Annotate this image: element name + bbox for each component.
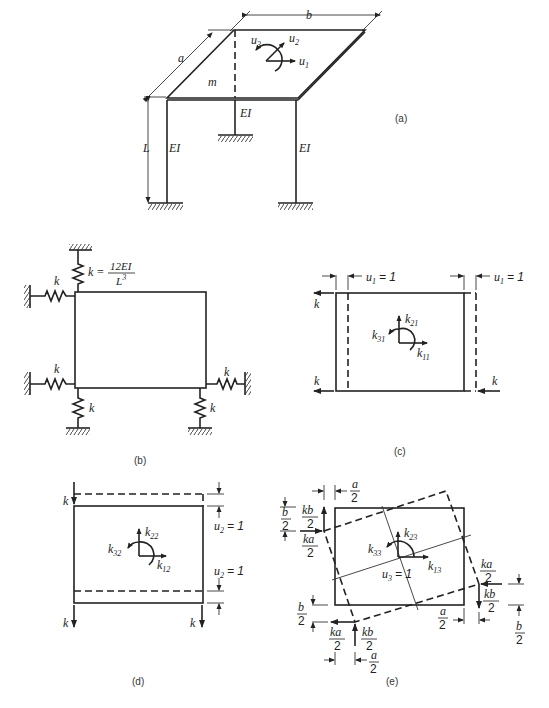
svg-text:k: k xyxy=(314,374,320,388)
fixed-support-icon xyxy=(218,135,253,142)
svg-text:k32: k32 xyxy=(108,542,121,558)
svg-text:k22: k22 xyxy=(145,525,158,541)
slab-plan xyxy=(336,293,464,391)
svg-text:k13: k13 xyxy=(428,559,441,575)
svg-text:kb: kb xyxy=(362,625,373,639)
svg-text:ka: ka xyxy=(303,532,314,546)
panel-c: u1= 1 u1= 1 k k k k21 k31 k11 (c) xyxy=(314,270,524,457)
structural-dynamics-figure: b a L m EI EI EI u1 u2 u3 (a) xyxy=(0,0,549,708)
svg-text:u1: u1 xyxy=(299,54,309,70)
svg-text:2: 2 xyxy=(351,491,358,505)
panel-label-b: (b) xyxy=(134,455,146,466)
spring-icon xyxy=(24,372,75,395)
svg-text:k: k xyxy=(63,616,69,630)
spring-icon xyxy=(66,388,90,435)
svg-text:u2: u2 xyxy=(289,31,299,47)
svg-text:k: k xyxy=(89,401,95,415)
label-b: b xyxy=(306,8,312,22)
svg-text:k: k xyxy=(224,365,230,379)
panel-a: b a L m EI EI EI u1 u2 u3 (a) xyxy=(142,8,407,210)
svg-text:2: 2 xyxy=(439,618,446,632)
svg-text:2: 2 xyxy=(307,546,314,560)
svg-text:u3: u3 xyxy=(251,33,261,49)
svg-text:kb: kb xyxy=(302,503,313,517)
svg-text:2: 2 xyxy=(485,571,492,585)
panel-e: k23 k33 k13 u3= 1 kb 2 ka 2 b 2 a 2 xyxy=(280,477,525,687)
svg-text:b: b xyxy=(298,600,304,614)
svg-text:k: k xyxy=(210,401,216,415)
label-a: a xyxy=(178,51,184,65)
svg-text:k12: k12 xyxy=(157,558,170,574)
svg-text:k21: k21 xyxy=(405,312,418,328)
panel-label-d: (d) xyxy=(132,676,144,687)
frac-kb-2: kb 2 xyxy=(302,503,318,531)
svg-text:2: 2 xyxy=(370,662,377,676)
fixed-support-icon xyxy=(148,203,183,210)
svg-text:L3: L3 xyxy=(115,273,126,287)
svg-text:a: a xyxy=(352,477,358,491)
label-ei-left: EI xyxy=(168,141,181,155)
svg-text:kb: kb xyxy=(484,587,495,601)
svg-text:k: k xyxy=(314,297,320,311)
k31-rotation-icon xyxy=(389,328,415,350)
svg-text:u1= 1: u1= 1 xyxy=(494,270,524,286)
frac-kb-2: kb 2 xyxy=(483,587,499,615)
panel-d: k k k u2= 1 u2= 1 k22 k32 k12 (d) xyxy=(63,482,244,687)
frac-ka-2: ka 2 xyxy=(302,532,318,560)
svg-text:a: a xyxy=(440,604,446,618)
panel-label-e: (e) xyxy=(386,676,398,687)
dof-arrows: u1 u2 u3 xyxy=(251,31,309,71)
frac-ka-2: ka 2 xyxy=(480,557,496,585)
svg-text:u2= 1: u2= 1 xyxy=(214,519,244,535)
svg-text:u2= 1: u2= 1 xyxy=(214,564,244,580)
svg-text:2: 2 xyxy=(307,517,314,531)
slab-plan xyxy=(75,292,206,388)
stiffness-equation-lhs: k = xyxy=(88,265,104,279)
svg-text:a: a xyxy=(371,648,377,662)
svg-text:u1= 1: u1= 1 xyxy=(366,270,396,286)
panel-b: k = 12EI L3 k k k k xyxy=(24,244,251,466)
k32-rotation-icon xyxy=(128,542,154,565)
fixed-support-icon xyxy=(278,203,313,210)
svg-text:k: k xyxy=(54,362,60,376)
stiffness-equation-numerator: 12EI xyxy=(110,260,133,272)
label-ei-middle: EI xyxy=(239,106,252,120)
svg-text:ka: ka xyxy=(330,625,341,639)
svg-text:k: k xyxy=(492,374,498,388)
svg-text:k31: k31 xyxy=(372,328,385,344)
svg-text:k33: k33 xyxy=(368,542,381,558)
slab-top xyxy=(167,30,365,98)
frac-ka-2: ka 2 xyxy=(329,625,345,653)
label-mass: m xyxy=(208,75,217,89)
svg-text:b: b xyxy=(282,505,288,519)
svg-text:2: 2 xyxy=(334,639,341,653)
spring-icon xyxy=(24,285,75,308)
dimension-a xyxy=(148,33,212,97)
panel-label-c: (c) xyxy=(394,446,406,457)
spring-icon xyxy=(188,388,212,435)
svg-text:2: 2 xyxy=(488,601,495,615)
svg-text:2: 2 xyxy=(516,633,523,647)
svg-text:ka: ka xyxy=(481,557,492,571)
svg-text:b: b xyxy=(516,619,522,633)
svg-text:k: k xyxy=(54,274,60,288)
svg-text:2: 2 xyxy=(282,519,289,533)
label-L: L xyxy=(142,141,150,155)
panel-label-a: (a) xyxy=(395,113,407,124)
label-ei-right: EI xyxy=(298,141,311,155)
svg-text:2: 2 xyxy=(298,614,305,628)
svg-text:k23: k23 xyxy=(404,526,417,542)
svg-text:u3= 1: u3= 1 xyxy=(382,567,412,583)
svg-text:k: k xyxy=(190,616,196,630)
svg-text:k: k xyxy=(63,494,69,508)
svg-text:k11: k11 xyxy=(417,346,430,362)
